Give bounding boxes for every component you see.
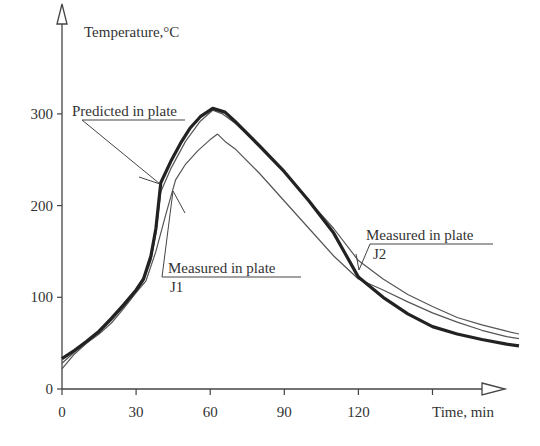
y-tick-label: 300 [31, 106, 54, 122]
y-axis [57, 4, 67, 389]
y-axis-label: Temperature,°C [84, 24, 179, 40]
annotation-predicted-label: Predicted in plate [72, 103, 177, 119]
annotation-j2-label: Measured in plate [366, 227, 474, 243]
y-tick-label: 100 [31, 289, 54, 305]
y-axis-arrow-icon [57, 4, 67, 24]
x-tick-label: 0 [58, 404, 66, 420]
x-axis-arrow-icon [482, 383, 505, 395]
x-tick-label: 120 [347, 404, 370, 420]
y-tick-label: 0 [46, 381, 54, 397]
annotation-j1-label: Measured in plate [168, 260, 276, 276]
annotation-j2-sub: J2 [373, 246, 386, 262]
y-tick-label: 200 [31, 198, 54, 214]
x-tick-label: 30 [129, 404, 144, 420]
annotation-j1-sub: J1 [170, 279, 183, 295]
x-axis [62, 383, 505, 395]
annotation-predicted [82, 120, 185, 184]
temperature-chart: 03060901200100200300 Temperature,°C Time… [0, 0, 540, 446]
x-tick-label: 90 [277, 404, 292, 420]
x-tick-label: 60 [203, 404, 218, 420]
x-axis-label: Time, min [432, 404, 494, 420]
